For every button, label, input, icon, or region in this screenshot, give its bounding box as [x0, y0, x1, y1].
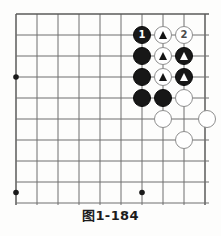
stone-move-number: 2 — [181, 30, 188, 40]
star-point-bottom-center — [139, 190, 145, 196]
go-diagram-figure: 12 图1-184 — [0, 0, 221, 236]
go-board[interactable]: 12 — [0, 0, 221, 205]
figure-caption: 图1-184 — [0, 205, 221, 224]
stone-move-number: 1 — [139, 30, 146, 40]
star-point-bottom-left — [13, 190, 19, 196]
star-point-left — [13, 74, 19, 80]
triangle-marker-icon — [180, 73, 188, 81]
triangle-marker-icon — [159, 31, 167, 39]
triangle-marker-icon — [180, 52, 188, 60]
triangle-marker-icon — [159, 52, 167, 60]
triangle-marker-icon — [159, 73, 167, 81]
